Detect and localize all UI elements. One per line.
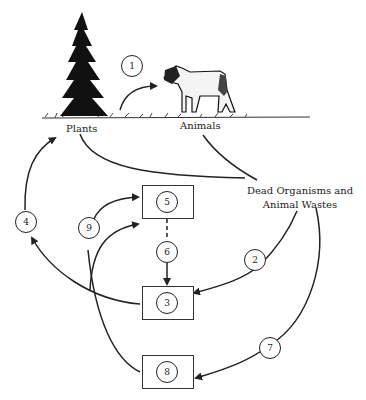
- arrow-3-to-plants: [32, 238, 140, 304]
- step-4-circle: 4: [15, 211, 37, 233]
- line-8-to-9: [88, 250, 140, 372]
- dead-organisms-line1: Dead Organisms and: [242, 184, 358, 198]
- step-7-circle: 7: [259, 337, 281, 359]
- line-animals-to-dead: [203, 135, 257, 180]
- arrow-dead-to-8: [196, 208, 320, 378]
- dead-organisms-label: Dead Organisms and Animal Wastes: [242, 184, 358, 212]
- step-6-circle: 6: [156, 241, 178, 263]
- arrow-dead-to-3: [194, 211, 297, 293]
- arrow-9-to-5: [94, 197, 138, 219]
- step-9-circle: 9: [78, 217, 100, 239]
- line-plants-to-dead: [80, 134, 245, 178]
- step-2-circle: 2: [244, 249, 266, 271]
- dead-organisms-line2: Animal Wastes: [242, 198, 358, 212]
- arrow-4-to-plants: [25, 138, 55, 210]
- animals-label: Animals: [180, 120, 221, 131]
- step-1-circle: 1: [121, 55, 143, 77]
- cow-icon: [164, 66, 235, 112]
- arrow-plants-to-animals: [120, 86, 156, 110]
- step-5-circle: 5: [156, 191, 178, 213]
- step-3-circle: 3: [156, 292, 178, 314]
- step-8-circle: 8: [156, 361, 178, 383]
- plants-label: Plants: [66, 123, 97, 134]
- pine-tree-icon: [60, 12, 108, 116]
